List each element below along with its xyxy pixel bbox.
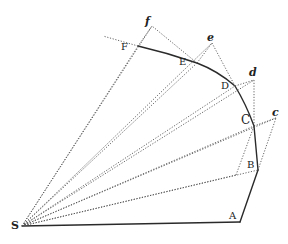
line-B-c bbox=[258, 118, 276, 170]
line-D-d bbox=[235, 80, 254, 86]
radial-S-D bbox=[22, 86, 235, 226]
line-F-f bbox=[138, 26, 152, 46]
segment-SA bbox=[22, 222, 240, 226]
radial-S-e bbox=[22, 43, 212, 226]
label-d: d bbox=[249, 66, 257, 79]
label-F: F bbox=[121, 41, 128, 52]
segment-BC bbox=[254, 126, 258, 170]
line-E-f bbox=[152, 26, 197, 63]
label-f: f bbox=[144, 15, 152, 28]
geometry-diagram: S A B C D E F c d e f bbox=[0, 0, 288, 244]
label-B: B bbox=[247, 159, 254, 170]
label-E: E bbox=[179, 56, 186, 67]
radial-lines bbox=[22, 26, 276, 226]
radial-S-d bbox=[22, 80, 254, 226]
label-D: D bbox=[221, 80, 229, 91]
radial-S-f bbox=[22, 26, 152, 226]
label-S: S bbox=[11, 219, 19, 232]
radial-S-C bbox=[22, 126, 254, 226]
segment-AB bbox=[240, 170, 258, 222]
construction-lines bbox=[103, 26, 276, 175]
radial-S-c bbox=[22, 118, 276, 226]
radial-S-B bbox=[22, 170, 258, 226]
label-C: C bbox=[241, 113, 250, 127]
solid-path bbox=[22, 46, 258, 226]
label-A: A bbox=[228, 210, 237, 221]
label-c: c bbox=[272, 106, 279, 119]
line-C-c bbox=[254, 118, 276, 126]
radial-S-E bbox=[22, 63, 197, 226]
label-e: e bbox=[207, 31, 214, 44]
line-E-e bbox=[197, 43, 212, 63]
